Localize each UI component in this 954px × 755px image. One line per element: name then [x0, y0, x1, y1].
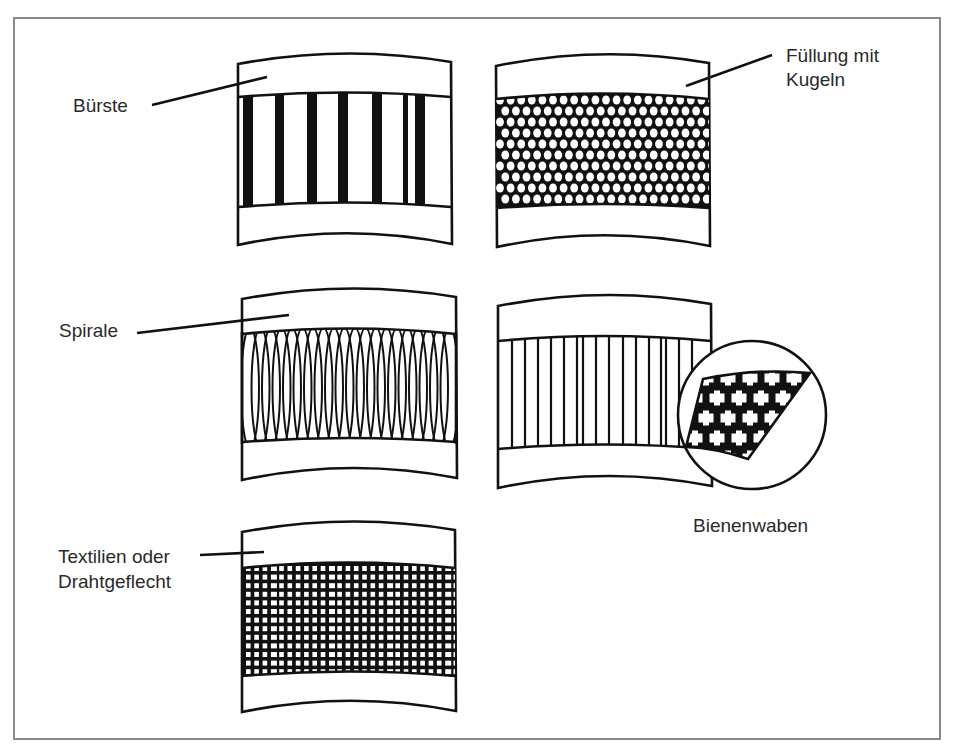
mesh-cell [304, 609, 309, 614]
mesh-cell [296, 583, 301, 588]
mesh-cell [445, 609, 451, 614]
ball [539, 117, 547, 126]
ball [613, 117, 621, 126]
mesh-cell [263, 592, 268, 597]
brush-bristle [372, 85, 382, 215]
mesh-cell [271, 566, 277, 571]
label-spirale: Spirale [59, 320, 118, 341]
ball [692, 194, 700, 203]
ball [528, 139, 536, 148]
ball [613, 161, 621, 170]
mesh-cell [379, 618, 384, 623]
mesh-cell [312, 652, 317, 657]
mesh-cell [346, 635, 351, 640]
mesh-cell [321, 566, 326, 571]
mesh-cell [429, 626, 434, 631]
ball [512, 150, 520, 159]
mesh-cell [437, 600, 442, 605]
mesh-cell [346, 652, 351, 657]
ball [639, 128, 647, 137]
ball [671, 194, 679, 203]
ball [501, 128, 509, 137]
mesh-cell [304, 643, 309, 648]
ball [607, 150, 615, 159]
mesh-cell [271, 626, 277, 631]
ball [634, 95, 642, 104]
ball [602, 95, 610, 104]
ball [581, 161, 589, 170]
mesh-cell [329, 583, 335, 588]
mesh-cell [337, 661, 342, 666]
ball [586, 150, 594, 159]
mesh-cell [304, 600, 309, 605]
mesh-cell [296, 652, 301, 657]
mesh-cell [445, 661, 451, 666]
mesh-cell [420, 652, 425, 657]
ball [645, 139, 653, 148]
brush-bristle [415, 85, 425, 215]
mesh-cell [412, 575, 417, 580]
mesh-cell [296, 592, 301, 597]
mesh-cell [437, 661, 442, 666]
mesh-cell [429, 652, 434, 657]
mesh-cell [288, 661, 293, 666]
mesh-cell [371, 635, 376, 640]
mesh-cell [304, 618, 309, 623]
ball [682, 106, 690, 115]
mesh-cell [404, 643, 409, 648]
ball [544, 172, 552, 181]
ball [576, 172, 584, 181]
mesh-cell [420, 618, 425, 623]
mesh-cell [437, 643, 442, 648]
ball [507, 183, 515, 192]
ball [629, 172, 637, 181]
mesh-cell [404, 618, 409, 623]
mesh-cell [288, 618, 293, 623]
mesh-cell [296, 600, 301, 605]
mesh-cell [246, 609, 251, 614]
ball [676, 183, 684, 192]
ball [544, 194, 552, 203]
ball [533, 172, 541, 181]
ball [698, 161, 706, 170]
mesh-cell [404, 575, 409, 580]
mesh-cell [387, 618, 393, 623]
mesh-cell [304, 626, 309, 631]
mesh-cell [395, 566, 400, 571]
ball [618, 194, 626, 203]
mesh-cell [395, 635, 400, 640]
ball [581, 95, 589, 104]
mesh-cell [346, 609, 351, 614]
ball [565, 150, 573, 159]
ball [623, 139, 631, 148]
mesh-cell [329, 609, 335, 614]
ball [629, 106, 637, 115]
mesh-cell [246, 626, 251, 631]
mesh-cell [312, 635, 317, 640]
mesh-cell [379, 600, 384, 605]
mesh-cell [387, 609, 393, 614]
ball [634, 161, 642, 170]
mesh-cell [329, 643, 335, 648]
mesh-cell [271, 592, 277, 597]
mesh-cell [371, 583, 376, 588]
ball [634, 117, 642, 126]
mesh-cell [412, 583, 417, 588]
brush-bristle [338, 85, 348, 215]
ball [586, 128, 594, 137]
ball [645, 183, 653, 192]
ball [650, 194, 658, 203]
ball [576, 128, 584, 137]
mesh-cell [420, 635, 425, 640]
mesh-cell [371, 661, 376, 666]
mesh-cell [354, 600, 359, 605]
mesh-cell [321, 635, 326, 640]
mesh-cell [279, 609, 284, 614]
ball [698, 117, 706, 126]
mesh-cell [354, 575, 359, 580]
mesh-cell [412, 618, 417, 623]
mesh-cell [296, 661, 301, 666]
ball [581, 183, 589, 192]
ball [655, 117, 663, 126]
mesh-cell [337, 643, 342, 648]
